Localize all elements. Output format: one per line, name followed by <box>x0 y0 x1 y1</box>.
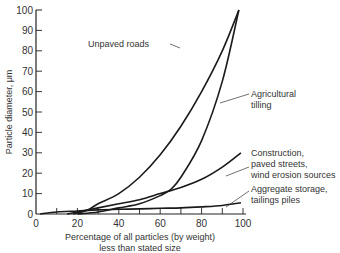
x-tick-label: 0 <box>33 218 39 229</box>
x-tick-label: 20 <box>72 218 84 229</box>
x-axis-label-line2: less than stated size <box>99 243 181 253</box>
series-label: Agricultural <box>251 89 296 99</box>
leader-line <box>220 94 249 103</box>
y-tick-label: 40 <box>22 127 34 138</box>
x-tick-label: 100 <box>235 218 252 229</box>
y-tick-label: 90 <box>22 25 34 36</box>
y-tick-label: 70 <box>22 66 34 77</box>
y-tick-label: 0 <box>27 209 33 220</box>
x-tick-label: 60 <box>155 218 167 229</box>
series-label: Construction, <box>251 148 304 158</box>
x-tick-label: 40 <box>113 218 125 229</box>
y-tick-label: 20 <box>22 168 34 179</box>
particle-size-chart: 0204060801000102030405060708090100 Unpav… <box>0 0 340 253</box>
leader-line <box>226 191 249 207</box>
series-label: tailings piles <box>251 195 301 205</box>
series-label: tilling <box>251 100 272 110</box>
series-label: Unpaved roads <box>88 39 150 49</box>
y-tick-label: 10 <box>22 188 34 199</box>
x-axis-label-line1: Percentage of all particles (by weight) <box>65 232 215 242</box>
series-labels: Unpaved roadsAgriculturaltillingConstruc… <box>88 39 336 207</box>
y-tick-label: 60 <box>22 86 34 97</box>
y-tick-label: 30 <box>22 147 34 158</box>
leader-line <box>170 44 180 48</box>
y-tick-label: 100 <box>16 5 33 16</box>
series-curve-3 <box>40 203 241 214</box>
series-label: Aggregate storage, <box>251 184 328 194</box>
y-tick-label: 80 <box>22 45 34 56</box>
x-tick-label: 80 <box>196 218 208 229</box>
leader-line <box>226 167 249 176</box>
series-label: paved streets, <box>251 159 308 169</box>
y-tick-label: 50 <box>22 107 34 118</box>
series-label: wind erosion sources <box>250 170 336 180</box>
y-axis-label: Particle diameter, μm <box>4 70 14 155</box>
